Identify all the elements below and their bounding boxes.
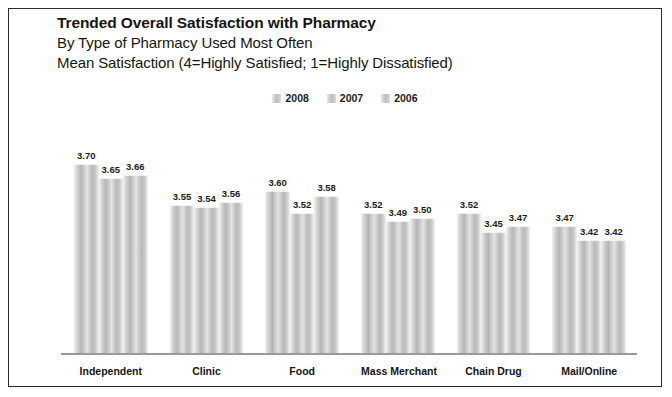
bar-group: 3.523.453.47 bbox=[457, 9, 531, 353]
bar-rect bbox=[457, 213, 482, 353]
bar-value-label: 3.66 bbox=[126, 161, 145, 172]
bar-value-label: 3.60 bbox=[268, 177, 287, 188]
bar-independent-2008[interactable]: 3.70 bbox=[74, 9, 99, 353]
chart-frame: Trended Overall Satisfaction with Pharma… bbox=[8, 8, 662, 387]
bar-value-label: 3.50 bbox=[413, 204, 432, 215]
bar-group: 3.553.543.56 bbox=[170, 9, 244, 353]
bar-clinic-2006[interactable]: 3.56 bbox=[219, 9, 244, 353]
bar-mass-merchant-2007[interactable]: 3.49 bbox=[386, 9, 411, 353]
bar-rect bbox=[99, 178, 124, 354]
bar-value-label: 3.52 bbox=[460, 199, 479, 210]
bar-value-label: 3.52 bbox=[364, 199, 383, 210]
bar-rect bbox=[386, 221, 411, 353]
bar-group: 3.703.653.66 bbox=[74, 9, 148, 353]
bar-rect bbox=[410, 218, 435, 353]
bar-rect bbox=[601, 240, 626, 353]
category-label-food: Food bbox=[265, 365, 339, 377]
bar-clinic-2008[interactable]: 3.55 bbox=[170, 9, 195, 353]
bar-rect bbox=[506, 226, 531, 353]
bar-value-label: 3.42 bbox=[580, 226, 599, 237]
bar-rect bbox=[219, 202, 244, 353]
bar-value-label: 3.47 bbox=[509, 212, 528, 223]
bar-food-2008[interactable]: 3.60 bbox=[265, 9, 290, 353]
bar-rect bbox=[265, 191, 290, 353]
bar-value-label: 3.42 bbox=[604, 226, 623, 237]
category-label-mass-merchant: Mass Merchant bbox=[361, 365, 435, 377]
bar-chain-drug-2006[interactable]: 3.47 bbox=[506, 9, 531, 353]
bar-group-bars: 3.703.653.66 bbox=[74, 9, 148, 353]
bar-value-label: 3.56 bbox=[222, 188, 241, 199]
bar-rect bbox=[170, 205, 195, 354]
bar-value-label: 3.54 bbox=[197, 193, 216, 204]
bar-value-label: 3.47 bbox=[555, 212, 574, 223]
bar-group: 3.523.493.50 bbox=[361, 9, 435, 353]
bar-food-2006[interactable]: 3.58 bbox=[314, 9, 339, 353]
bar-group-bars: 3.523.493.50 bbox=[361, 9, 435, 353]
bar-rect bbox=[314, 196, 339, 353]
bar-mass-merchant-2008[interactable]: 3.52 bbox=[361, 9, 386, 353]
bar-value-label: 3.65 bbox=[102, 164, 121, 175]
bar-value-label: 3.45 bbox=[484, 218, 503, 229]
category-label-chain-drug: Chain Drug bbox=[457, 365, 531, 377]
bar-mail-online-2008[interactable]: 3.47 bbox=[552, 9, 577, 353]
bar-group-bars: 3.473.423.42 bbox=[552, 9, 626, 353]
axis-baseline bbox=[61, 353, 637, 355]
bar-rect bbox=[74, 164, 99, 353]
bar-rect bbox=[290, 213, 315, 353]
bar-mass-merchant-2006[interactable]: 3.50 bbox=[410, 9, 435, 353]
bar-independent-2007[interactable]: 3.65 bbox=[99, 9, 124, 353]
category-label-independent: Independent bbox=[74, 365, 148, 377]
bar-group: 3.473.423.42 bbox=[552, 9, 626, 353]
bar-rect bbox=[361, 213, 386, 353]
bar-value-label: 3.58 bbox=[317, 182, 336, 193]
bar-group-bars: 3.553.543.56 bbox=[170, 9, 244, 353]
bar-value-label: 3.70 bbox=[77, 150, 96, 161]
bar-clinic-2007[interactable]: 3.54 bbox=[194, 9, 219, 353]
bar-rect bbox=[481, 232, 506, 354]
category-label-clinic: Clinic bbox=[170, 365, 244, 377]
bar-rect bbox=[552, 226, 577, 353]
bar-food-2007[interactable]: 3.52 bbox=[290, 9, 315, 353]
bar-group-bars: 3.523.453.47 bbox=[457, 9, 531, 353]
bar-value-label: 3.55 bbox=[173, 191, 192, 202]
bar-mail-online-2006[interactable]: 3.42 bbox=[601, 9, 626, 353]
bar-independent-2006[interactable]: 3.66 bbox=[123, 9, 148, 353]
bar-group-bars: 3.603.523.58 bbox=[265, 9, 339, 353]
bar-mail-online-2007[interactable]: 3.42 bbox=[577, 9, 602, 353]
category-label-mail-online: Mail/Online bbox=[552, 365, 626, 377]
bar-value-label: 3.49 bbox=[389, 207, 408, 218]
bar-chain-drug-2007[interactable]: 3.45 bbox=[481, 9, 506, 353]
bar-chain-drug-2008[interactable]: 3.52 bbox=[457, 9, 482, 353]
plot-area: 3.703.653.66Independent3.553.543.56Clini… bbox=[9, 9, 662, 387]
bar-rect bbox=[577, 240, 602, 353]
bar-group: 3.603.523.58 bbox=[265, 9, 339, 353]
bar-value-label: 3.52 bbox=[293, 199, 312, 210]
bar-rect bbox=[123, 175, 148, 353]
bar-rect bbox=[194, 207, 219, 353]
